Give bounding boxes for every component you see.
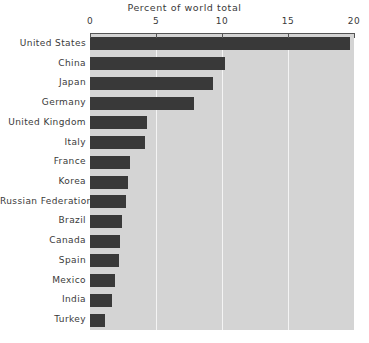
bar: [90, 37, 350, 50]
bar: [90, 176, 128, 189]
x-tick-label-10: 10: [216, 16, 228, 26]
bar: [90, 116, 147, 129]
bar: [90, 77, 213, 90]
plot-area: [90, 34, 354, 330]
x-tick-10: [222, 33, 223, 38]
category-label: India: [0, 294, 86, 304]
category-label: United Kingdom: [0, 117, 86, 127]
category-label: Mexico: [0, 275, 86, 285]
bar: [90, 274, 115, 287]
x-tick-label-15: 15: [282, 16, 294, 26]
bar: [90, 57, 225, 70]
category-label: Spain: [0, 255, 86, 265]
bar-chart-figure: Percent of world total 05101520 United S…: [0, 0, 369, 343]
bar: [90, 254, 119, 267]
bar: [90, 215, 122, 228]
y-axis-category-labels: United StatesChinaJapanGermanyUnited Kin…: [0, 34, 86, 330]
category-label: United States: [0, 38, 86, 48]
bar: [90, 156, 130, 169]
bar: [90, 235, 120, 248]
bar: [90, 136, 145, 149]
x-tick-5: [156, 33, 157, 38]
x-tick-label-20: 20: [348, 16, 360, 26]
category-label: France: [0, 156, 86, 166]
gridline-10: [222, 34, 223, 330]
x-tick-label-0: 0: [87, 16, 93, 26]
bar: [90, 314, 105, 327]
x-tick-20: [354, 33, 355, 38]
category-label: Italy: [0, 137, 86, 147]
category-label: China: [0, 58, 86, 68]
category-label: Japan: [0, 77, 86, 87]
bar: [90, 195, 126, 208]
bar: [90, 294, 112, 307]
category-label: Brazil: [0, 215, 86, 225]
category-label: Canada: [0, 235, 86, 245]
x-tick-label-5: 5: [153, 16, 159, 26]
category-label: Turkey: [0, 314, 86, 324]
chart-title: Percent of world total: [0, 2, 369, 13]
x-axis: 05101520: [90, 33, 354, 34]
category-label: Russian Federation: [0, 196, 86, 206]
category-label: Korea: [0, 176, 86, 186]
x-tick-15: [288, 33, 289, 38]
bar: [90, 97, 194, 110]
x-tick-0: [90, 33, 91, 38]
gridline-15: [288, 34, 289, 330]
category-label: Germany: [0, 97, 86, 107]
